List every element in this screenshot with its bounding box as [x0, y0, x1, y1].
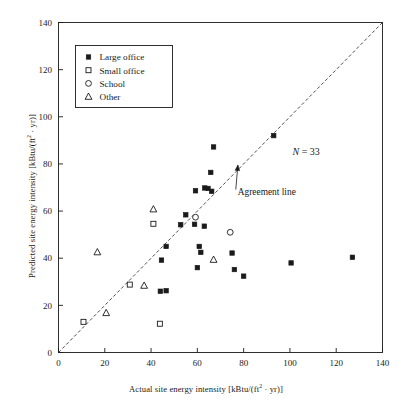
legend-label: Small office [100, 66, 145, 76]
x-tick-label-40: 40 [147, 358, 157, 368]
legend: Large officeSmall officeSchoolOther [76, 46, 173, 108]
point-0-20 [272, 133, 276, 137]
x-tick-label-100: 100 [283, 358, 297, 368]
point-0-7 [202, 224, 206, 228]
y-axis-title: Predicted site energy intensity [kBtu/(f… [27, 114, 37, 278]
point-0-5 [184, 213, 188, 217]
x-tick-label-120: 120 [329, 358, 343, 368]
y-tick-label-80: 80 [43, 159, 53, 169]
point-0-8 [197, 244, 201, 248]
plot-canvas: 020406080100120140020406080100120140Larg… [0, 0, 412, 405]
point-0-9 [199, 250, 203, 254]
legend-marker-open-circle [86, 81, 92, 87]
point-0-11 [193, 189, 197, 193]
x-tick-label-0: 0 [56, 358, 61, 368]
point-1-0 [81, 319, 86, 324]
point-0-18 [232, 267, 236, 271]
point-0-6 [192, 222, 196, 226]
point-2-1 [227, 229, 233, 235]
point-0-22 [350, 255, 354, 259]
point-0-1 [164, 289, 168, 293]
y-axis-title-container: Predicted site energy intensity [kBtu/(f… [21, 16, 39, 376]
scatter-plot-figure: 020406080100120140020406080100120140Larg… [0, 0, 412, 405]
point-0-3 [164, 244, 168, 248]
x-axis-title: Actual site energy intensity [kBtu/(ft2 … [0, 383, 412, 394]
point-0-19 [241, 274, 245, 278]
point-0-4 [178, 223, 182, 227]
point-0-17 [230, 251, 234, 255]
point-0-15 [209, 170, 213, 174]
y-tick-label-40: 40 [43, 253, 53, 263]
point-1-2 [151, 221, 156, 226]
point-1-3 [157, 321, 162, 326]
y-tick-label-120: 120 [39, 65, 53, 75]
point-0-16 [211, 145, 215, 149]
point-0-0 [158, 289, 162, 293]
x-tick-label-140: 140 [376, 358, 390, 368]
point-0-2 [159, 258, 163, 262]
y-tick-label-20: 20 [43, 301, 53, 311]
legend-label: Other [100, 92, 121, 102]
point-0-21 [289, 261, 293, 265]
point-2-0 [193, 214, 199, 220]
point-0-10 [195, 265, 199, 269]
legend-label: Large office [100, 52, 145, 62]
y-tick-label-0: 0 [48, 348, 53, 358]
point-1-1 [127, 282, 132, 287]
y-tick-label-100: 100 [39, 112, 53, 122]
x-tick-label-60: 60 [193, 358, 203, 368]
y-tick-label-140: 140 [39, 18, 53, 28]
legend-label: School [100, 79, 126, 89]
x-tick-label-80: 80 [239, 358, 249, 368]
y-tick-label-60: 60 [43, 206, 53, 216]
x-tick-label-20: 20 [100, 358, 110, 368]
annotation-agreement-line-label: Agreement line [238, 187, 296, 197]
annotation-sample-count: N = 33 [291, 146, 319, 157]
legend-marker-filled-square [86, 55, 90, 59]
legend-marker-open-square [86, 68, 91, 73]
point-0-14 [210, 189, 214, 193]
